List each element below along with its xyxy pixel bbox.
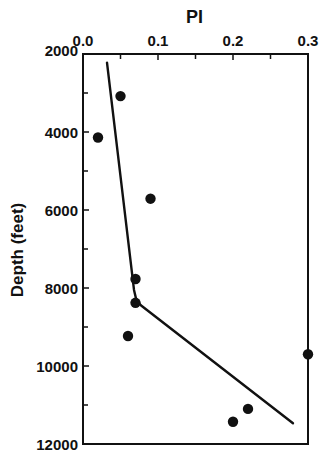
x-tick-label: 0.2 (223, 32, 244, 49)
data-point (303, 349, 313, 359)
data-point (130, 274, 140, 284)
data-point (243, 404, 253, 414)
data-point (228, 417, 238, 427)
data-point (145, 193, 155, 203)
y-tick-label: 10000 (36, 358, 78, 375)
y-tick-label: 8000 (45, 280, 78, 297)
y-tick-label: 2000 (45, 42, 78, 59)
y-tick-label: 6000 (45, 202, 78, 219)
data-point (93, 132, 103, 142)
y-tick-labels: 20004000600080001000012000 (36, 42, 78, 453)
depth-pi-chart: 0.00.10.20.3 20004000600080001000012000 (0, 0, 321, 464)
plot-frame (83, 54, 308, 444)
trend-line-path (107, 63, 293, 424)
data-point (115, 91, 125, 101)
data-points (93, 91, 313, 427)
x-tick-labels: 0.00.10.20.3 (73, 32, 319, 49)
data-point (123, 331, 133, 341)
data-point (130, 298, 140, 308)
y-tick-label: 12000 (36, 436, 78, 453)
x-tick-label: 0.3 (298, 32, 319, 49)
x-tick-label: 0.1 (148, 32, 169, 49)
trend-line (107, 63, 293, 424)
y-tick-label: 4000 (45, 124, 78, 141)
